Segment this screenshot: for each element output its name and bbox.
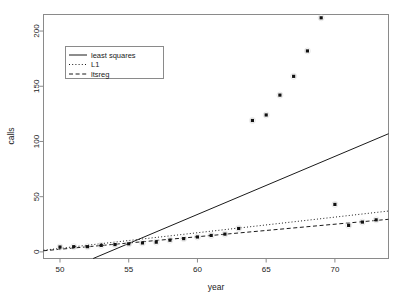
data-point bbox=[58, 245, 61, 248]
data-point bbox=[223, 233, 226, 236]
data-point bbox=[347, 224, 350, 227]
legend-label: ltsreg bbox=[91, 70, 109, 79]
regression-line-least-squares bbox=[93, 134, 388, 259]
data-point bbox=[72, 245, 75, 248]
x-tick-label: 50 bbox=[56, 265, 65, 274]
regression-lines bbox=[44, 134, 389, 259]
y-tick-label: 150 bbox=[32, 79, 41, 93]
data-point bbox=[100, 244, 103, 247]
data-point bbox=[333, 203, 336, 206]
y-tick-label: 200 bbox=[32, 24, 41, 38]
x-axis-title: year bbox=[208, 282, 225, 292]
data-point bbox=[361, 220, 364, 223]
data-point bbox=[306, 49, 309, 52]
data-point bbox=[237, 227, 240, 230]
data-point bbox=[141, 241, 144, 244]
data-point bbox=[265, 113, 268, 116]
data-point bbox=[155, 241, 158, 244]
data-point bbox=[86, 245, 89, 248]
x-axis: 5055606570 bbox=[56, 259, 340, 274]
legend: least squaresL1ltsreg bbox=[66, 47, 164, 79]
y-tick-label: 50 bbox=[32, 192, 41, 201]
data-point bbox=[168, 239, 171, 242]
legend-label: least squares bbox=[91, 51, 136, 60]
y-axis: 050100150200 bbox=[32, 24, 44, 254]
chart-container: 050100150200 5055606570 year calls least… bbox=[0, 0, 408, 303]
scatter-plot: 050100150200 5055606570 year calls least… bbox=[0, 0, 408, 303]
data-point bbox=[210, 234, 213, 237]
x-tick-label: 55 bbox=[124, 265, 133, 274]
data-point bbox=[375, 218, 378, 221]
data-point bbox=[182, 237, 185, 240]
regression-line-ltsreg bbox=[44, 219, 389, 250]
x-tick-label: 60 bbox=[193, 265, 202, 274]
legend-label: L1 bbox=[91, 60, 99, 69]
x-tick-label: 70 bbox=[330, 265, 339, 274]
y-tick-label: 0 bbox=[32, 249, 41, 254]
data-point bbox=[292, 75, 295, 78]
regression-line-l1 bbox=[44, 211, 389, 250]
y-axis-title: calls bbox=[6, 127, 16, 144]
x-tick-label: 65 bbox=[262, 265, 271, 274]
data-point bbox=[320, 16, 323, 19]
data-point bbox=[127, 242, 130, 245]
data-point bbox=[113, 243, 116, 246]
data-point bbox=[278, 93, 281, 96]
y-tick-label: 100 bbox=[32, 134, 41, 148]
data-point bbox=[251, 119, 254, 122]
data-point bbox=[196, 235, 199, 238]
